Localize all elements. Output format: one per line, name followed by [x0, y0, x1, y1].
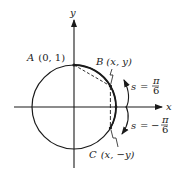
point-a: [72, 63, 75, 66]
point-c-label: C(x, −y): [89, 149, 135, 160]
x-axis-label: x: [166, 101, 172, 112]
svg-text:6: 6: [162, 124, 168, 135]
svg-text:s: s: [131, 120, 136, 131]
svg-text:s: s: [131, 81, 136, 92]
point-b-label: B(x, y): [95, 56, 132, 67]
arc-arrow-positive: [124, 80, 129, 108]
point-b-leader: [110, 69, 113, 84]
point-c: [109, 126, 112, 129]
point-a-label: A(0, 1): [26, 52, 65, 63]
arc-label-negative: s = − π 6: [131, 114, 169, 135]
svg-text:−: −: [151, 120, 159, 131]
svg-text:=: =: [140, 81, 148, 92]
svg-text:6: 6: [153, 85, 159, 96]
arc-arrow-negative: [122, 106, 128, 134]
point-b: [109, 84, 112, 87]
arc-label-positive: s = π 6: [131, 75, 160, 96]
point-c-leader: [111, 130, 118, 147]
point-x-intercept: [115, 106, 118, 109]
unit-circle-diagram: x y A(0, 1) B(x, y) C(x, −y) s = π 6 s =…: [0, 0, 190, 179]
svg-text:=: =: [140, 120, 148, 131]
y-axis-label: y: [69, 7, 76, 18]
